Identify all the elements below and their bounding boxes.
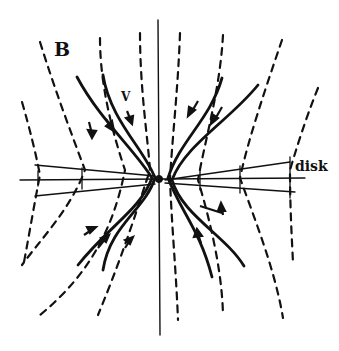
arrow-icon	[126, 111, 133, 124]
disk-label: disk	[295, 159, 328, 173]
velocity-label: V	[121, 91, 130, 103]
central-star	[155, 175, 162, 182]
panel-label: B	[54, 40, 70, 59]
solid-field-lines	[77, 75, 258, 277]
arrow-icon	[84, 227, 96, 235]
arrow-icon	[88, 122, 96, 138]
magnetic-field-diagram	[0, 0, 339, 351]
arrow-icon	[188, 101, 198, 116]
